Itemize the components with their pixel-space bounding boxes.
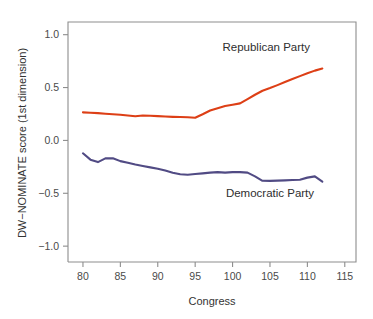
dw-nominate-line-chart: 1.00.50.0−0.5−1.0 80859095100105110115 R…: [0, 0, 373, 319]
y-tick-label: 0.5: [44, 81, 59, 93]
y-axis-tick-labels: 1.00.50.0−0.5−1.0: [38, 28, 59, 251]
x-axis-title: Congress: [188, 295, 236, 307]
series-annotations: Republican PartyDemocratic Party: [222, 41, 314, 199]
annotation-republican-party: Republican Party: [222, 41, 310, 53]
x-tick-label: 90: [152, 270, 164, 282]
data-series-lines: [83, 69, 322, 182]
y-axis-ticks: [63, 35, 68, 246]
annotation-democratic-party: Democratic Party: [226, 187, 314, 199]
plot-frame: [68, 22, 356, 262]
series-line-republican-party: [83, 69, 322, 118]
y-axis-title: DW−NOMINATE score (1st dimension): [16, 48, 28, 238]
y-tick-label: −1.0: [38, 240, 59, 252]
x-axis-ticks: [83, 262, 345, 267]
y-tick-label: 0.0: [44, 134, 59, 146]
x-tick-label: 105: [261, 270, 279, 282]
x-axis-tick-labels: 80859095100105110115: [77, 270, 353, 282]
x-tick-label: 100: [224, 270, 242, 282]
x-tick-label: 95: [189, 270, 201, 282]
x-tick-label: 85: [115, 270, 127, 282]
series-line-democratic-party: [83, 153, 322, 181]
chart-figure: 1.00.50.0−0.5−1.0 80859095100105110115 R…: [0, 0, 373, 319]
x-tick-label: 110: [299, 270, 316, 282]
x-tick-label: 80: [77, 270, 89, 282]
y-tick-label: 1.0: [44, 28, 59, 40]
y-tick-label: −0.5: [38, 187, 59, 199]
x-tick-label: 115: [336, 270, 353, 282]
